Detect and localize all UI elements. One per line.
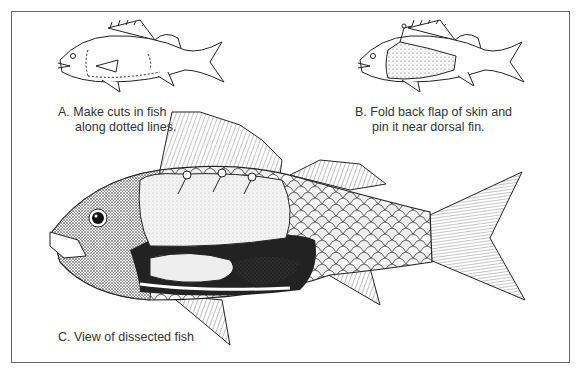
caption-a-label: A.: [58, 105, 70, 119]
caption-a: A. Make cuts in fish along dotted lines.: [58, 105, 176, 135]
caption-b-line1: Fold back flap of skin and: [370, 105, 512, 119]
caption-a-line2: along dotted lines.: [58, 120, 176, 135]
caption-b-label: B.: [355, 105, 367, 119]
caption-b: B. Fold back flap of skin and pin it nea…: [355, 105, 512, 135]
fish-a-illustration: [58, 20, 224, 92]
caption-c: C. View of dissected fish: [58, 330, 194, 345]
caption-b-line2: pin it near dorsal fin.: [355, 120, 512, 135]
caption-c-label: C.: [58, 330, 71, 344]
caption-c-line1: View of dissected fish: [74, 330, 194, 344]
caption-a-line1: Make cuts in fish: [73, 105, 166, 119]
figure-illustrations: [0, 0, 578, 376]
fish-b-illustration: [358, 20, 524, 92]
fish-c-illustration: [50, 112, 525, 345]
